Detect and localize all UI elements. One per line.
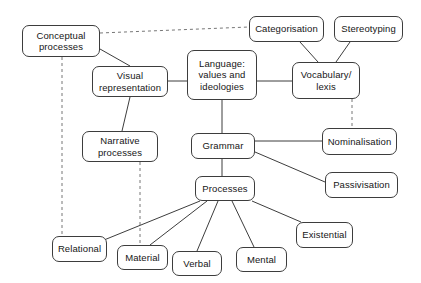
edge-processes-to-verbal <box>197 201 218 251</box>
node-label-nominalisation: Nominalisation <box>325 136 395 148</box>
node-label-existential: Existential <box>299 229 349 241</box>
node-verbal[interactable]: Verbal <box>172 251 222 276</box>
node-label-grammar: Grammar <box>200 140 247 152</box>
node-label-mental: Mental <box>244 254 279 266</box>
edge-categorisation-to-vocabulary <box>300 42 318 62</box>
edge-conceptual-to-visual <box>100 49 130 66</box>
edge-visual-to-narrative <box>122 97 130 131</box>
node-material[interactable]: Material <box>117 245 168 270</box>
node-label-visual: Visual representation <box>96 70 164 93</box>
node-grammar[interactable]: Grammar <box>191 133 255 159</box>
node-label-relational: Relational <box>55 243 104 255</box>
node-label-vocabulary: Vocabulary/ lexis <box>298 69 355 92</box>
node-label-conceptual: Conceptual processes <box>33 30 88 53</box>
node-narrative[interactable]: Narrative processes <box>82 131 158 162</box>
node-relational[interactable]: Relational <box>52 236 107 262</box>
node-label-language: Language: values and ideologies <box>196 58 249 93</box>
edge-processes-to-material <box>150 201 207 245</box>
node-label-narrative: Narrative processes <box>95 135 145 158</box>
node-label-stereotyping: Stereotyping <box>338 23 399 35</box>
node-language[interactable]: Language: values and ideologies <box>187 50 257 100</box>
node-categorisation[interactable]: Categorisation <box>249 16 324 42</box>
node-existential[interactable]: Existential <box>296 222 353 248</box>
edge-processes-to-mental <box>232 201 254 247</box>
edge-conceptual-to-categorisation <box>100 27 249 33</box>
edge-processes-to-existential <box>252 201 301 222</box>
node-label-verbal: Verbal <box>180 258 214 270</box>
node-label-passivisation: Passivisation <box>330 179 393 191</box>
node-conceptual[interactable]: Conceptual processes <box>22 25 100 57</box>
node-stereotyping[interactable]: Stereotyping <box>334 16 403 42</box>
node-mental[interactable]: Mental <box>236 247 287 272</box>
node-vocabulary[interactable]: Vocabulary/ lexis <box>292 62 360 99</box>
concept-map-diagram: Conceptual processesCategorisationStereo… <box>0 0 421 283</box>
node-nominalisation[interactable]: Nominalisation <box>322 128 397 155</box>
node-processes[interactable]: Processes <box>195 176 255 201</box>
edge-grammar-to-passivisation <box>255 152 325 182</box>
node-visual[interactable]: Visual representation <box>92 66 168 97</box>
node-passivisation[interactable]: Passivisation <box>325 172 398 198</box>
edge-stereotyping-to-vocabulary <box>336 42 350 62</box>
edge-processes-to-relational <box>104 201 200 240</box>
node-label-processes: Processes <box>199 183 250 195</box>
node-label-categorisation: Categorisation <box>252 23 321 35</box>
node-label-material: Material <box>122 252 163 264</box>
